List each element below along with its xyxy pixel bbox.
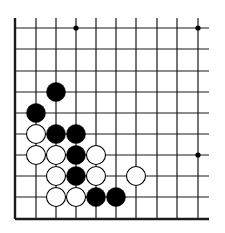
star-point-icon: [195, 25, 200, 30]
white-stone[interactable]: [27, 125, 46, 144]
white-stone[interactable]: [47, 146, 66, 165]
white-stone[interactable]: [127, 167, 146, 186]
black-stone[interactable]: [47, 83, 66, 102]
go-board[interactable]: [0, 0, 225, 233]
white-stone[interactable]: [27, 146, 46, 165]
star-point-icon: [195, 152, 200, 157]
white-stone[interactable]: [47, 167, 66, 186]
black-stone[interactable]: [67, 125, 86, 144]
white-stone[interactable]: [87, 167, 106, 186]
black-stone[interactable]: [47, 125, 66, 144]
star-point-icon: [73, 25, 78, 30]
black-stone[interactable]: [67, 146, 86, 165]
white-stone[interactable]: [67, 188, 86, 207]
stones-layer: [27, 83, 146, 207]
white-stone[interactable]: [87, 146, 106, 165]
black-stone[interactable]: [67, 167, 86, 186]
black-stone[interactable]: [27, 104, 46, 123]
black-stone[interactable]: [107, 188, 126, 207]
white-stone[interactable]: [47, 188, 66, 207]
black-stone[interactable]: [87, 188, 106, 207]
